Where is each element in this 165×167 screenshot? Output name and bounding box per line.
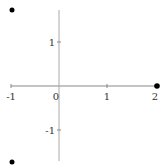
y-tick-label-neg1: -1 — [45, 125, 55, 136]
y-tick-label-1: 1 — [49, 37, 55, 48]
x-tick-label-neg1: -1 — [6, 91, 16, 102]
x-tick-label-0: 0 — [53, 91, 59, 102]
x-tick-label-2: 2 — [152, 91, 158, 102]
x-tick-label-1: 1 — [104, 91, 110, 102]
data-point-bottom-left — [10, 160, 15, 165]
data-point-top-left — [10, 8, 15, 13]
chart-canvas: -1 0 1 2 1 -1 — [0, 0, 165, 167]
data-point-right — [154, 83, 160, 89]
